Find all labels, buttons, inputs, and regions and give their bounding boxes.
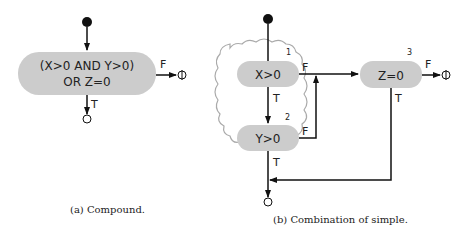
node-y-false-label: F — [302, 125, 308, 138]
compound-diagram: (X>0 AND Y>0) OR Z=0 F T (a) Compound. — [18, 17, 186, 215]
false-exit-icon — [442, 70, 450, 80]
start-node-icon — [263, 14, 273, 24]
caption-b: (b) Combination of simple. — [273, 214, 408, 225]
true-exit-icon — [264, 198, 272, 206]
node-x-true-label: T — [272, 92, 280, 105]
false-exit-icon — [178, 70, 186, 80]
node-x-label: X>0 — [255, 68, 281, 82]
node-z-false-label: F — [425, 58, 431, 71]
node-y-true-label: T — [272, 156, 280, 169]
node-z-true-label: T — [394, 92, 402, 105]
node-y-number: 2 — [285, 113, 290, 122]
caption-a: (a) Compound. — [70, 204, 145, 215]
true-exit-icon — [83, 115, 91, 123]
node-y-label: Y>0 — [254, 132, 280, 146]
true-label: T — [90, 98, 98, 111]
false-label: F — [160, 58, 166, 71]
node-z-label: Z=0 — [378, 69, 404, 83]
node-z-number: 3 — [407, 48, 412, 57]
node-x-number: 1 — [286, 48, 291, 57]
compound-node-line1: (X>0 AND Y>0) — [40, 59, 134, 73]
node-x-false-label: F — [302, 61, 308, 74]
start-node-icon — [82, 17, 92, 27]
diagram-canvas: (X>0 AND Y>0) OR Z=0 F T (a) Compound. X… — [0, 0, 468, 235]
simple-diagram: X>0 1 F T Y>0 2 F T Z=0 3 F T (b) Comb — [215, 14, 450, 225]
compound-node-line2: OR Z=0 — [63, 75, 111, 89]
